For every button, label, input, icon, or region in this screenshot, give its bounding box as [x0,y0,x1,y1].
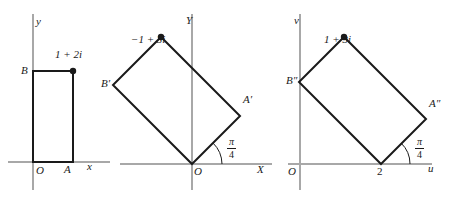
panel-3-vertex-label-a-double-prime: A″ [429,98,440,109]
panel-2-angle-numerator: π [226,137,237,148]
panel-1-x-axis-label: x [87,161,92,172]
panel-1-group [8,14,110,190]
panel-3-u-axis-label: u [428,163,434,174]
panel-2-y-axis-label: Y [186,15,192,26]
panel-3-v-axis-label: v [294,15,299,26]
panel-1-point-label: 1 + 2i [55,49,82,60]
panel-1-y-axis-label: y [36,16,41,27]
panel-2-angle-arc [213,143,222,164]
panel-3-angle-arc [401,143,410,164]
panel-1-vertex-label-b: B [21,65,28,76]
panel-3-point-label: 1 + 3i [324,34,351,45]
panel-1-origin-label: O [36,165,44,176]
panel-3-rectangle [299,37,426,164]
panel-2-angle-label: π 4 [226,137,237,160]
panel-2-vertex-label-a-prime: A′ [243,94,252,105]
panel-1-vertex-marker [70,68,76,74]
panel-2-x-axis-label: X [257,164,264,175]
panel-1-rectangle [33,71,73,162]
panel-2-vertex-label-b-prime: B′ [101,78,110,89]
panel-2-angle-denominator: 4 [226,150,237,161]
panel-1-vertex-label-a: A [64,164,71,175]
panel-3-vertex-label-b-double-prime: B″ [286,75,297,86]
panel-3-base-point-label: 2 [377,166,383,177]
panel-3-angle-numerator: π [414,137,425,148]
panel-2-origin-label: O [194,166,202,177]
panel-3-angle-label: π 4 [414,137,425,160]
panel-2-point-label: −1 + 3i [131,34,165,45]
panel-3-group [288,14,432,190]
panel-2-rectangle [113,37,240,164]
panel-3-angle-denominator: 4 [414,150,425,161]
panel-3-origin-label: O [288,166,296,177]
